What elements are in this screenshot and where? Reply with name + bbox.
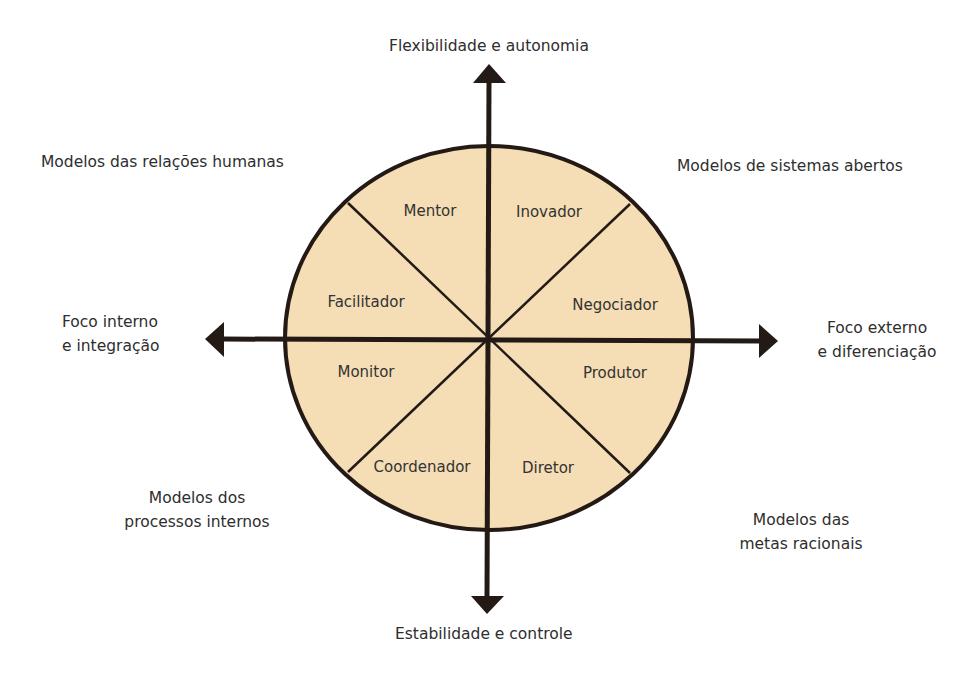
axis-label-bottom: Estabilidade e controle	[395, 622, 573, 646]
axis-label-top: Flexibilidade e autonomia	[389, 34, 589, 58]
arrow-right-icon	[759, 324, 778, 358]
axis-label-left: Foco interno e integração	[62, 310, 159, 358]
role-mentor: Mentor	[404, 201, 457, 221]
arrow-down-icon	[471, 596, 504, 614]
axis-label-right: Foco externo e diferenciação	[814, 316, 940, 364]
axis-label-left-line1: Foco interno	[62, 310, 159, 334]
quadrant-label-bottom-left-line2: processos internos	[112, 510, 282, 534]
quadrant-label-bottom-right-line1: Modelos das	[726, 508, 876, 532]
horizontal-axis	[222, 339, 762, 341]
role-facilitador: Facilitador	[327, 292, 404, 312]
role-negociador: Negociador	[572, 295, 658, 315]
role-produtor: Produtor	[583, 363, 647, 383]
role-diretor: Diretor	[522, 458, 574, 478]
quadrant-label-top-right: Modelos de sistemas abertos	[677, 154, 903, 178]
arrow-left-icon	[205, 322, 224, 357]
axis-label-left-line2: e integração	[62, 334, 159, 358]
quadrant-label-bottom-left: Modelos dos processos internos	[112, 486, 282, 534]
arrow-up-icon	[473, 64, 506, 83]
quadrant-label-top-left: Modelos das relações humanas	[41, 150, 284, 174]
quadrant-label-bottom-left-line1: Modelos dos	[112, 486, 282, 510]
quadrant-label-bottom-right: Modelos das metas racionais	[726, 508, 876, 556]
role-coordenador: Coordenador	[373, 457, 470, 477]
quadrant-label-bottom-right-line2: metas racionais	[726, 532, 876, 556]
axis-label-right-line2: e diferenciação	[814, 340, 940, 364]
axis-label-right-line1: Foco externo	[814, 316, 940, 340]
role-monitor: Monitor	[337, 362, 394, 382]
role-inovador: Inovador	[516, 202, 582, 222]
